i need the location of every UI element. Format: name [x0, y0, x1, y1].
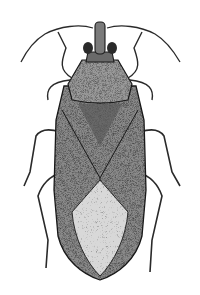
right-antenna — [107, 26, 180, 62]
clypeus — [95, 22, 105, 54]
insect-illustration — [0, 0, 200, 295]
left-eye — [83, 42, 93, 54]
illustration-canvas — [0, 0, 200, 295]
left-antenna — [21, 26, 93, 62]
right-eye — [107, 42, 117, 54]
